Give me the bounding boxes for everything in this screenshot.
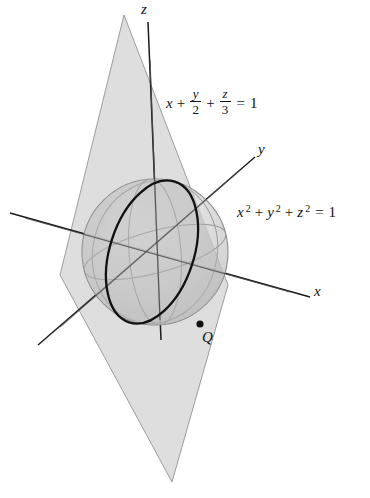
plane-eq-term-x: x bbox=[166, 96, 173, 111]
axis-label-z: z bbox=[141, 2, 147, 17]
sphere-eq-term-x: x bbox=[237, 205, 244, 220]
plane-eq-plus-2: + bbox=[206, 96, 214, 111]
axis-label-y: y bbox=[258, 142, 265, 157]
figure-root: z y x Q x + y 2 + z 3 = 1 x 2 + y 2 + z … bbox=[0, 0, 370, 498]
plane-eq-plus-1: + bbox=[177, 96, 185, 111]
plane-eq-rhs: 1 bbox=[250, 96, 258, 111]
plane-eq-frac2-numerator: z bbox=[221, 87, 230, 101]
sphere-eq-exp-y: 2 bbox=[276, 204, 281, 214]
sphere-eq-rhs: 1 bbox=[329, 205, 337, 220]
point-q-group bbox=[196, 320, 203, 327]
plane-eq-equals: = bbox=[237, 96, 245, 111]
plane-eq-frac1-denominator: 2 bbox=[190, 103, 201, 117]
sphere-eq-term-z: z bbox=[297, 205, 303, 220]
figure-canvas bbox=[0, 0, 370, 498]
point-q-label: Q bbox=[202, 330, 213, 345]
plane-eq-frac2-denominator: 3 bbox=[220, 103, 231, 117]
sphere-eq-plus-2: + bbox=[285, 205, 293, 220]
plane-eq-fraction-y-over-2: y 2 bbox=[190, 87, 201, 117]
plane-eq-frac1-numerator: y bbox=[191, 87, 201, 101]
sphere-eq-plus-1: + bbox=[255, 205, 263, 220]
plane-eq-fraction-z-over-3: z 3 bbox=[220, 87, 231, 117]
sphere-eq-exp-x: 2 bbox=[246, 204, 251, 214]
point-q-marker bbox=[196, 320, 203, 327]
sphere-eq-term-y: y bbox=[267, 205, 274, 220]
sphere-equation: x 2 + y 2 + z 2 = 1 bbox=[237, 205, 336, 220]
sphere-eq-equals: = bbox=[315, 205, 323, 220]
sphere-eq-exp-z: 2 bbox=[305, 204, 310, 214]
plane-equation: x + y 2 + z 3 = 1 bbox=[166, 88, 258, 118]
axis-label-x: x bbox=[314, 284, 321, 299]
